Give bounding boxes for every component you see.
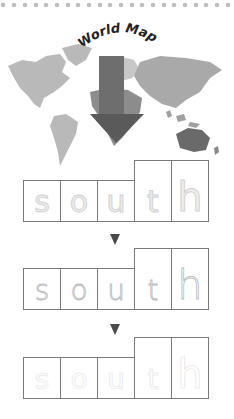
letter-box-4: t [134, 160, 172, 222]
letter-box-4: t [134, 337, 172, 399]
islands [166, 110, 200, 128]
new-zealand [214, 146, 219, 155]
triangle-down-icon [110, 324, 120, 335]
south-america [50, 114, 78, 166]
letter: s [24, 277, 60, 305]
letter-box-5: h [171, 337, 209, 399]
greenland [62, 44, 92, 66]
north-america [8, 54, 70, 108]
letter-box-1: s [23, 180, 61, 222]
asia [134, 56, 222, 108]
letter: o [61, 277, 97, 305]
letter-box-3: u [97, 180, 135, 222]
letter: o [61, 366, 97, 394]
letter: h [172, 265, 208, 305]
letter-box-2: o [60, 357, 98, 399]
word-row-solid: s o u t h [23, 160, 209, 222]
letter-box-2: o [60, 180, 98, 222]
letter: h [172, 177, 208, 217]
letter: u [98, 187, 134, 217]
map-title: World Map [75, 20, 160, 51]
word-row-faint: s o u t h [23, 337, 209, 399]
dotted-border [0, 0, 234, 12]
letter-box-3: u [97, 268, 135, 310]
word-row-dashed: s o u t h [23, 248, 209, 310]
world-map: World Map [0, 18, 234, 168]
triangle-down-icon [110, 234, 120, 245]
letter-box-1: s [23, 268, 61, 310]
letter: t [135, 366, 171, 394]
letter-box-1: s [23, 357, 61, 399]
letter-box-5: h [171, 248, 209, 310]
australia [176, 128, 210, 152]
letter: u [98, 277, 134, 305]
letter: s [24, 366, 60, 394]
letter: s [24, 187, 60, 217]
letter: t [135, 277, 171, 305]
letter: o [61, 187, 97, 217]
letter: h [172, 354, 208, 394]
letter-box-5: h [171, 160, 209, 222]
letter-box-2: o [60, 268, 98, 310]
letter-box-4: t [134, 248, 172, 310]
letter: t [135, 187, 171, 217]
letter: u [98, 366, 134, 394]
letter-box-3: u [97, 357, 135, 399]
